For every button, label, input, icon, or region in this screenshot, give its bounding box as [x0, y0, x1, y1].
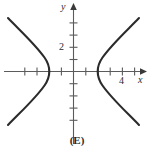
hyperbola-figure: y x 2 4 (E): [0, 0, 154, 153]
x-axis-label: x: [138, 75, 142, 85]
x-axis-tick-label-4: 4: [119, 76, 124, 86]
plot-canvas: [0, 0, 154, 153]
y-axis-tick-label-2: 2: [59, 42, 64, 52]
y-axis-label: y: [61, 2, 65, 12]
figure-caption: (E): [0, 135, 154, 146]
arrow-up-icon: [70, 3, 77, 10]
